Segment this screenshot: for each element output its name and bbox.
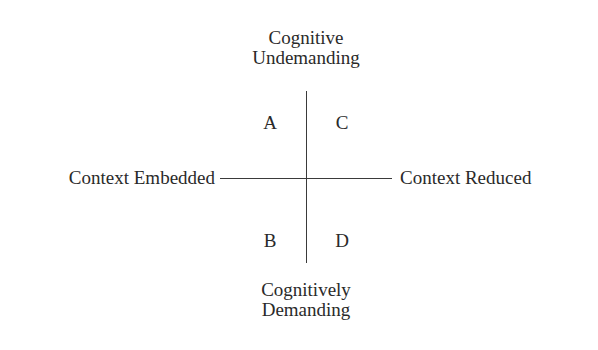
vertical-axis-line: [306, 91, 307, 263]
quadrant-diagram: Cognitive Undemanding Context Embedded C…: [0, 0, 598, 350]
right-axis-label: Context Reduced: [400, 168, 531, 188]
top-axis-label: Cognitive Undemanding: [206, 28, 406, 68]
bottom-axis-label-line1: Cognitively: [206, 280, 406, 300]
quadrant-b-label: B: [255, 231, 285, 251]
top-axis-label-line1: Cognitive: [206, 28, 406, 48]
top-axis-label-line2: Undemanding: [206, 48, 406, 68]
bottom-axis-label: Cognitively Demanding: [206, 280, 406, 320]
quadrant-a-label: A: [255, 113, 285, 133]
left-axis-label: Context Embedded: [69, 168, 215, 188]
quadrant-d-label: D: [327, 231, 357, 251]
bottom-axis-label-line2: Demanding: [206, 300, 406, 320]
quadrant-c-label: C: [327, 113, 357, 133]
